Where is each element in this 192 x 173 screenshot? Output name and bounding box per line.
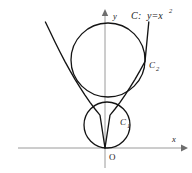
circle-c1-label: C: [120, 117, 127, 127]
curve-label-group: C : y=x 2: [131, 7, 173, 21]
curve-label-c: C: [131, 10, 138, 21]
x-axis-label: x: [171, 134, 176, 144]
y-axis-arrowhead: [102, 9, 108, 16]
curve-label-separator: :: [138, 10, 141, 21]
circle-c2: [71, 23, 145, 97]
origin-label: O: [109, 152, 116, 162]
circle-c2-label-subscript: 2: [156, 65, 160, 72]
circle-c1-label-subscript: 1: [127, 122, 130, 129]
y-axis-label: y: [112, 11, 117, 21]
circle-c2-label: C: [149, 60, 156, 70]
parabola-left-branch: [45, 22, 105, 148]
curve-label-equation: y=x: [146, 10, 163, 21]
curve-label-exponent: 2: [169, 7, 173, 14]
figure-container: C : y=x 2 C 2 C 1 x y O: [0, 0, 192, 173]
x-axis-arrowhead: [181, 145, 188, 152]
parabola-circles-figure: C : y=x 2 C 2 C 1 x y O: [0, 0, 192, 173]
circle-c2-label-group: C 2: [149, 60, 160, 72]
